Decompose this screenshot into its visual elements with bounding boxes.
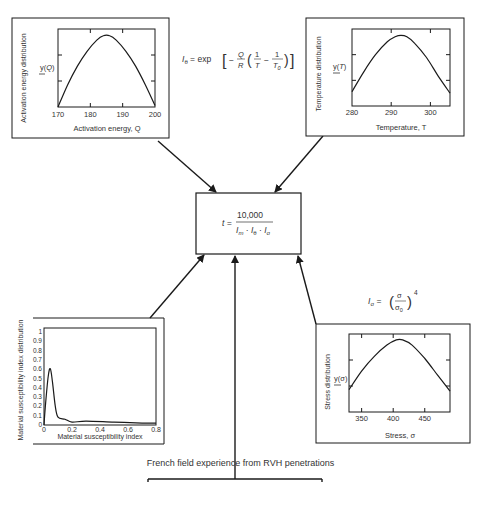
x-tick-label: 300 [424, 108, 437, 117]
svg-text:(: ( [247, 52, 252, 68]
svg-text:): ) [284, 52, 289, 68]
arrow-material-to-time [150, 255, 204, 318]
temperature-y-label: y(T) [333, 62, 347, 71]
svg-text:): ) [407, 293, 412, 310]
activation-y-label: y(Q) [40, 63, 55, 72]
stress-y-label: y(σ) [334, 374, 348, 383]
y-tick-label: 0.9 [33, 337, 42, 344]
x-tick-label: 0.2 [67, 426, 77, 433]
activation-y-title: Activation energy distribution [20, 33, 28, 123]
x-tick-label: 0.4 [95, 426, 105, 433]
svg-text:Iσ =: Iσ = [368, 296, 381, 307]
material-susceptibility-panel: 00.10.20.30.40.50.60.70.80.91 00.20.40.6… [17, 318, 164, 444]
y-tick-label: 0.4 [33, 384, 42, 391]
y-tick-label: 0.1 [33, 412, 42, 419]
y-tick-label: 0.6 [33, 365, 42, 372]
svg-text:σ: σ [397, 291, 402, 300]
x-tick-label: 400 [387, 414, 400, 423]
time-numerator: 10,000 [237, 210, 263, 220]
time-lhs: t = [222, 218, 232, 228]
stress-panel: 350400450 y(σ) Stress, σ Stress distribu… [316, 324, 470, 443]
temperature-x-title: Temperature, T [376, 123, 427, 132]
x-tick-label: 200 [149, 110, 162, 119]
material-x-title: Material susceptibility index [57, 433, 143, 441]
svg-text:Q: Q [238, 50, 244, 59]
arrow-stress-to-time [298, 256, 316, 324]
x-tick-label: 350 [355, 414, 368, 423]
svg-text:R: R [238, 61, 244, 70]
y-tick-label: 1 [38, 328, 42, 335]
arrow-activation-to-time [158, 141, 216, 192]
time-formula-box: t = 10,000 Im · Iθ · Iσ [196, 193, 301, 254]
x-tick-label: 290 [385, 108, 398, 117]
connectors [148, 136, 323, 482]
svg-text:1: 1 [275, 50, 279, 59]
i-sigma-formula: Iσ = ( σ σ0 ) 4 [368, 289, 418, 313]
svg-text:−: − [229, 55, 234, 65]
x-tick-label: 450 [418, 414, 431, 423]
temperature-panel: 280290300 y(T) Temperature, T Temperatur… [306, 18, 464, 136]
x-tick-label: 180 [84, 110, 97, 119]
y-tick-label: 0.3 [33, 393, 42, 400]
material-curve [44, 369, 156, 425]
svg-text:T0: T0 [273, 61, 282, 71]
svg-text:4: 4 [414, 289, 418, 296]
svg-text:σ0: σ0 [395, 303, 403, 313]
svg-text:1: 1 [255, 50, 259, 59]
x-tick-label: 0 [42, 426, 46, 433]
svg-text:−: − [264, 55, 269, 65]
field-experience-caption: French field experience from RVH penetra… [0, 458, 481, 468]
x-tick-label: 170 [52, 110, 65, 119]
activation-x-title: Activation energy, Q [74, 124, 141, 133]
x-tick-label: 190 [116, 110, 129, 119]
x-tick-label: 280 [346, 108, 359, 117]
i-theta-formula: Iθ = exp [ − Q R ( 1 T − 1 T0 ) ] [182, 50, 294, 71]
x-tick-label: 0.8 [151, 426, 161, 433]
x-tick-label: 0.6 [123, 426, 133, 433]
y-tick-label: 0.7 [33, 356, 42, 363]
svg-text:[: [ [222, 52, 227, 69]
stress-y-title: Stress distribution [324, 354, 331, 410]
stress-x-title: Stress, σ [385, 431, 415, 440]
material-plot-area [44, 328, 156, 425]
svg-text:(: ( [389, 293, 394, 310]
material-y-title: Material susceptibility index distributi… [17, 319, 25, 440]
y-tick-label: 0.5 [33, 375, 42, 382]
temperature-y-title: Temperature distribution [315, 36, 323, 111]
y-tick-label: 0.2 [33, 402, 42, 409]
activation-energy-panel: 170180190200 y(Q) Activation energy, Q A… [12, 18, 169, 138]
svg-text:Iθ = exp: Iθ = exp [182, 54, 211, 65]
diagram-canvas: t = 10,000 Im · Iθ · Iσ Iθ = exp [ − Q R… [0, 0, 481, 506]
y-tick-label: 0.8 [33, 347, 42, 354]
svg-text:]: ] [290, 52, 294, 69]
svg-text:T: T [255, 61, 261, 70]
arrow-temperature-to-time [275, 136, 323, 192]
